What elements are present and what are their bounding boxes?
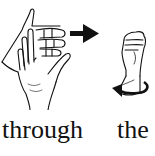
fist-rotate-icon	[100, 0, 155, 110]
sign-illustration-the	[100, 0, 155, 110]
sign-illustration-through	[0, 0, 100, 110]
arrow-right-icon	[70, 24, 99, 43]
hands-interlaced-icon	[0, 0, 100, 110]
caption-through: through	[2, 117, 83, 143]
caption-the: the	[117, 117, 149, 143]
